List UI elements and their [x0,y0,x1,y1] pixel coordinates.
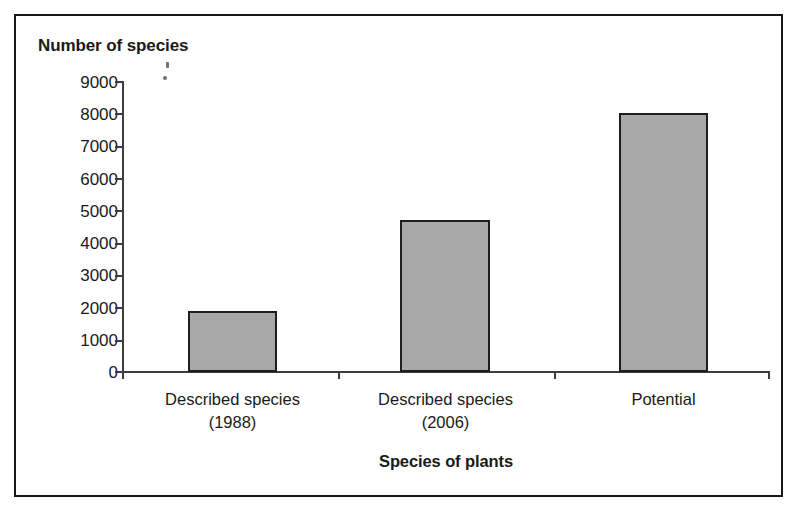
y-tick-label-9000: 9000 [56,74,118,91]
bar-potential[interactable] [619,113,708,372]
x-tick-mark-2 [554,371,556,379]
y-tick-label-7000: 7000 [56,138,118,155]
scan-speck-2 [163,76,167,80]
y-tick-mark-4000 [115,243,123,245]
y-tick-mark-1000 [115,340,123,342]
y-tick-label-4000: 4000 [56,235,118,252]
y-tick-label-3000: 3000 [56,267,118,284]
y-tick-mark-6000 [115,178,123,180]
y-tick-label-8000: 8000 [56,106,118,123]
y-axis-line [122,81,124,373]
y-tick-mark-2000 [115,307,123,309]
y-tick-label-2000: 2000 [56,300,118,317]
y-tick-label-5000: 5000 [56,203,118,220]
y-tick-mark-5000 [115,210,123,212]
x-tick-mark-start [122,371,124,379]
bar-described-species-2006[interactable] [400,220,490,372]
x-category-label-2-line2: (2006) [343,411,548,434]
x-category-label-3: Potential [561,388,766,411]
x-category-label-1-line2: (1988) [130,411,335,434]
y-tick-mark-8000 [115,113,123,115]
y-axis-tick-labels: 9000 8000 7000 6000 5000 4000 3000 2000 … [56,0,118,515]
y-tick-label-0: 0 [56,364,118,381]
x-category-label-1: Described species (1988) [130,388,335,434]
x-category-label-2-line1: Described species [343,388,548,411]
y-tick-label-1000: 1000 [56,332,118,349]
x-tick-mark-1 [338,371,340,379]
x-category-label-3-line1: Potential [561,388,766,411]
y-tick-mark-7000 [115,146,123,148]
x-category-label-1-line1: Described species [130,388,335,411]
y-tick-mark-3000 [115,275,123,277]
x-category-label-2: Described species (2006) [343,388,548,434]
y-tick-mark-9000 [115,81,123,83]
y-tick-label-6000: 6000 [56,171,118,188]
scan-speck-1 [166,62,169,68]
bar-described-species-1988[interactable] [188,311,277,372]
x-axis-title: Species of plants [122,452,770,471]
chart-figure: Number of species 9000 8000 7000 6000 50… [0,0,798,515]
x-tick-mark-end [768,371,770,379]
plot-area: 9000 8000 7000 6000 5000 4000 3000 2000 … [0,0,798,515]
